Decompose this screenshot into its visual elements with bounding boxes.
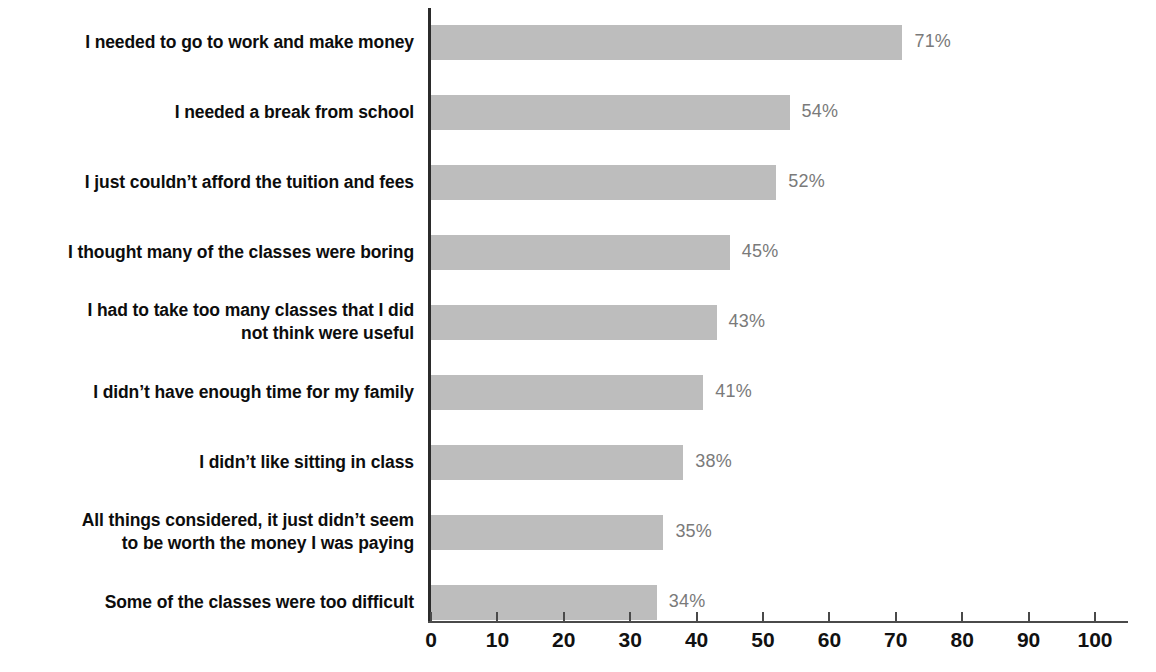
x-axis-tick-mark: [762, 612, 764, 623]
x-axis-ticks-container: 0102030405060708090100: [0, 0, 1156, 672]
plot-area: I needed to go to work and make money71%…: [0, 0, 1156, 672]
x-axis-tick-mark: [1094, 612, 1096, 623]
x-axis-tick-label: 100: [1055, 628, 1135, 652]
horizontal-bar-chart: I needed to go to work and make money71%…: [0, 0, 1156, 672]
x-axis-tick-mark: [629, 612, 631, 623]
x-axis-tick-mark: [696, 612, 698, 623]
x-axis-tick-mark: [1028, 612, 1030, 623]
x-axis-tick-mark: [961, 612, 963, 623]
x-axis-tick-mark: [430, 612, 432, 623]
x-axis-tick-mark: [496, 612, 498, 623]
x-axis-tick-mark: [895, 612, 897, 623]
x-axis-tick-mark: [828, 612, 830, 623]
x-axis-tick-mark: [563, 612, 565, 623]
